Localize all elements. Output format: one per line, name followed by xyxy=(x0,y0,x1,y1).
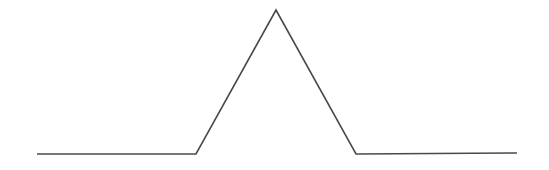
pulse-waveform-line xyxy=(37,10,517,154)
triangular-pulse-figure xyxy=(0,0,549,170)
diagram-canvas xyxy=(0,0,549,170)
